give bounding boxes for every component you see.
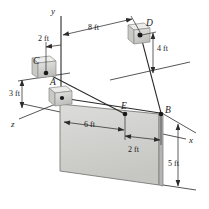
dimension-label-6ft-plate: 6 ft	[84, 121, 95, 129]
dimension-label-4ft-right: 4 ft	[157, 45, 168, 53]
point-label-B: B	[165, 106, 171, 116]
dimension-label-5ft-right: 5 ft	[168, 160, 179, 168]
node-E	[123, 112, 128, 117]
point-label-D: D	[146, 19, 153, 29]
dimension-label-2ft-top: 2 ft	[38, 35, 49, 43]
dimension-label-3ft-left: 3 ft	[9, 90, 20, 98]
point-label-C: C	[33, 57, 39, 67]
axis-label-x: x	[189, 136, 193, 145]
point-label-A: A	[50, 78, 56, 88]
plate-face	[60, 104, 159, 185]
dim-2ft-top-line	[46, 45, 61, 47]
node-B	[159, 112, 164, 117]
block-A	[49, 86, 72, 106]
block-C-side	[38, 61, 56, 78]
node-D	[138, 33, 143, 38]
statics-figure: y z x A B C D E 2 ft 8 ft 4 ft 3 ft 6 ft…	[0, 0, 209, 209]
axis-label-z: z	[11, 120, 15, 129]
figure-canvas	[0, 0, 209, 209]
dimension-label-8ft-top: 8 ft	[88, 24, 99, 32]
node-C	[44, 71, 49, 76]
point-label-E: E	[121, 102, 127, 112]
node-A	[60, 96, 64, 100]
axis-label-y: y	[51, 7, 55, 16]
dimension-label-2ft-plate: 2 ft	[128, 146, 139, 154]
rectangular-plate	[60, 104, 163, 186]
